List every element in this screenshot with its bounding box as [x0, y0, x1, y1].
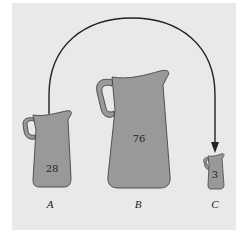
- label-a: A: [46, 198, 54, 210]
- pitcher-a-value: 28: [46, 163, 59, 174]
- pitchers-diagram: 28 76 3 A B C: [0, 0, 242, 241]
- pitcher-b-value: 76: [133, 133, 146, 144]
- pitcher-c: 3: [204, 154, 224, 189]
- pitcher-c-value: 3: [212, 169, 218, 180]
- label-b: B: [135, 198, 142, 210]
- pitcher-b: 76: [97, 70, 171, 188]
- pitcher-a: 28: [23, 111, 71, 187]
- label-c: C: [211, 198, 219, 210]
